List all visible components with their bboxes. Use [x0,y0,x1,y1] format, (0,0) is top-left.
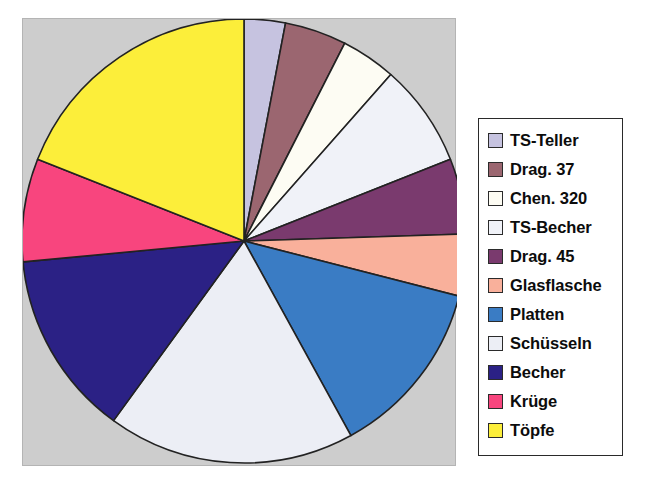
legend-swatch-icon [488,133,503,148]
legend-swatch-icon [488,162,503,177]
legend-item-platten[interactable]: Platten [488,300,622,329]
legend-item-ts-becher[interactable]: TS-Becher [488,213,622,242]
chart-root: TS-Teller Drag. 37 Chen. 320 TS-Becher D… [0,0,645,485]
legend-swatch-icon [488,423,503,438]
legend-label: Platten [510,306,564,323]
legend-swatch-icon [488,365,503,380]
legend-swatch-icon [488,278,503,293]
legend-item-ts-teller[interactable]: TS-Teller [488,126,622,155]
pie-plot-area [22,18,456,466]
legend-swatch-icon [488,336,503,351]
legend-label: Chen. 320 [510,190,587,207]
legend-label: Becher [510,364,565,381]
chart-legend: TS-Teller Drag. 37 Chen. 320 TS-Becher D… [478,118,623,456]
legend-item-chen-320[interactable]: Chen. 320 [488,184,622,213]
legend-label: TS-Becher [510,219,592,236]
legend-label: TS-Teller [510,132,578,149]
legend-item-glasflasche[interactable]: Glasflasche [488,271,622,300]
legend-label: Schüsseln [510,335,592,352]
legend-item-kruege[interactable]: Krüge [488,387,622,416]
legend-label: Krüge [510,393,557,410]
legend-swatch-icon [488,191,503,206]
legend-item-drag-37[interactable]: Drag. 37 [488,155,622,184]
legend-label: Drag. 45 [510,248,574,265]
legend-swatch-icon [488,307,503,322]
legend-swatch-icon [488,394,503,409]
legend-item-becher[interactable]: Becher [488,358,622,387]
legend-label: Töpfe [510,422,554,439]
legend-item-drag-45[interactable]: Drag. 45 [488,242,622,271]
pie-slice-group [23,19,457,463]
pie-chart[interactable] [23,19,457,467]
legend-item-toepfe[interactable]: Töpfe [488,416,622,445]
legend-swatch-icon [488,249,503,264]
legend-label: Glasflasche [510,277,602,294]
legend-swatch-icon [488,220,503,235]
legend-label: Drag. 37 [510,161,574,178]
legend-item-schuesseln[interactable]: Schüsseln [488,329,622,358]
